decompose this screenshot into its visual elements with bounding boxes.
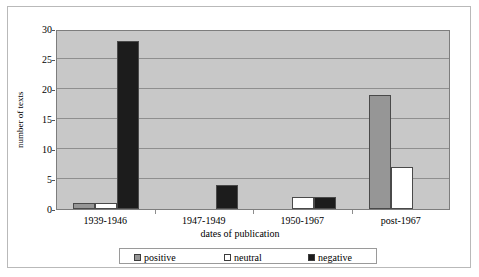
y-axis-tick-mark [52,210,55,211]
bar-neutral-1950-1967 [292,197,314,209]
bar-group [353,31,452,209]
x-axis-tick-label: post-1967 [352,215,451,226]
legend-item-neutral: neutral [224,251,262,263]
bar-negative-1939-1946 [117,41,139,209]
y-axis-title: number of texts [13,70,27,170]
bar-neutral-1939-1946 [95,203,117,209]
legend-swatch-icon [224,254,231,261]
y-axis-tick-label: 20 [32,85,52,95]
x-axis-tick-label: 1950-1967 [253,215,352,226]
x-axis-divider [253,210,254,214]
legend-label: negative [318,252,352,263]
bar-negative-1950-1967 [314,197,336,209]
legend-item-negative: negative [308,251,352,263]
y-axis-tick-label: 30 [32,25,52,35]
y-axis-tick-mark [52,150,55,151]
bar-group [57,31,156,209]
legend-label: neutral [234,252,262,263]
x-axis-divider [155,210,156,214]
y-axis-tick-labels: 051015202530 [28,7,52,233]
bar-group [254,31,353,209]
x-axis-tick-label: 1947-1949 [155,215,254,226]
chart-legend: positiveneutralnegative [119,248,377,264]
y-axis-tick-label: 10 [32,145,52,155]
y-axis-tick-label: 15 [32,115,52,125]
y-axis-tick-label: 0 [32,205,52,215]
bar-neutral-post-1967 [391,167,413,209]
x-axis-divider [352,210,353,214]
legend-label: positive [144,252,176,263]
bars-layer [57,31,449,209]
x-axis-title: dates of publication [8,228,472,239]
chart-frame: number of texts 051015202530 1939-194619… [7,6,471,268]
legend-swatch-icon [134,254,141,261]
legend-item-positive: positive [134,251,176,263]
plot-area [56,30,450,210]
y-axis-tick-label: 5 [32,175,52,185]
bar-group [156,31,255,209]
y-axis-tick-label: 25 [32,55,52,65]
bar-positive-post-1967 [369,95,391,209]
y-axis-tick-mark [52,120,55,121]
y-axis-tick-mark [52,30,55,31]
bar-positive-1939-1946 [73,203,95,209]
x-axis-tick-label: 1939-1946 [56,215,155,226]
legend-swatch-icon [308,254,315,261]
bar-negative-1947-1949 [216,185,238,209]
y-axis-tick-mark [52,180,55,181]
y-axis-tick-mark [52,90,55,91]
y-axis-tick-mark [52,60,55,61]
